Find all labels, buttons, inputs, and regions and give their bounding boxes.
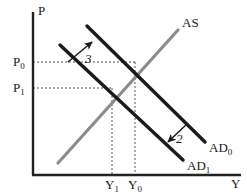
- tick-label-y0: Y0: [128, 178, 142, 191]
- curve-label-as: AS: [182, 16, 199, 29]
- annotation-label-3: 3: [85, 52, 92, 65]
- curve-label-ad0: AD0: [209, 141, 232, 154]
- curve-ad1-main: AD: [187, 158, 206, 173]
- tick-label-p0: P0: [13, 55, 25, 68]
- guide-lines: [33, 62, 135, 174]
- annotation-label-2: 2: [176, 132, 183, 145]
- tick-p0-sub: 0: [20, 61, 25, 71]
- y-axis-label: P: [38, 4, 45, 17]
- tick-y1-main: Y: [105, 177, 114, 192]
- curve-as-main: AS: [182, 15, 199, 30]
- curve-label-ad1: AD1: [187, 159, 210, 172]
- tick-label-p1: P1: [13, 81, 25, 94]
- ad-as-diagram: P Y P0 P1 Y1 Y0 AS AD0 AD1 3 2: [0, 0, 247, 195]
- tick-y0-sub: 0: [137, 184, 142, 194]
- tick-label-y1: Y1: [105, 178, 119, 191]
- curve-ad0-main: AD: [209, 140, 228, 155]
- tick-p1-sub: 1: [20, 87, 25, 97]
- tick-y1-sub: 1: [114, 184, 119, 194]
- tick-y0-main: Y: [128, 177, 137, 192]
- curve-ad0-sub: 0: [228, 147, 233, 157]
- curve-ad1-sub: 1: [206, 165, 211, 175]
- x-axis-label: Y: [231, 177, 240, 190]
